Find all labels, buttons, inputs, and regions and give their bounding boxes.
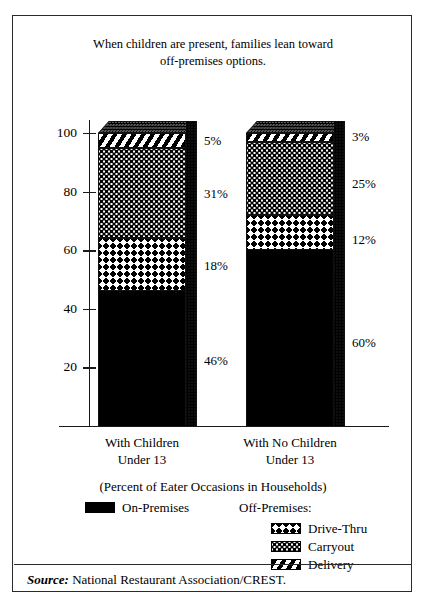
bar-top-face-with-no-children bbox=[246, 121, 345, 133]
source-divider bbox=[14, 564, 412, 565]
category-label-with-no-children-line-2: Under 13 bbox=[210, 451, 370, 468]
bar-front-face-with-children bbox=[98, 133, 186, 426]
legend-swatch-carryout-icon bbox=[271, 541, 301, 552]
legend-item-carryout: Carryout bbox=[271, 539, 354, 554]
legend-swatch-drive-thru-icon bbox=[271, 523, 301, 534]
legend-item-on-premises: On-Premises bbox=[85, 500, 189, 515]
y-tick-mark-20 bbox=[83, 367, 96, 368]
bar-label-delivery-with-no-children: 3% bbox=[352, 130, 369, 143]
y-tick-mark-80 bbox=[83, 192, 96, 193]
y-tick-label-20: 20 bbox=[31, 360, 77, 374]
y-tick-label-80: 80 bbox=[31, 185, 77, 199]
legend-label-carryout: Carryout bbox=[308, 539, 354, 554]
source-label: Source: bbox=[27, 572, 69, 587]
legend-swatch-on-premises-icon bbox=[85, 502, 115, 513]
y-tick-mark-100 bbox=[83, 133, 96, 134]
bar-segment-onpremises-with-no-children bbox=[247, 250, 333, 426]
bar-segment-carryout-with-no-children bbox=[247, 142, 333, 215]
bar-label-drivethru-with-no-children: 12% bbox=[352, 233, 376, 246]
legend-label-drive-thru: Drive-Thru bbox=[308, 521, 367, 536]
chart-caption: (Percent of Eater Occasions in Household… bbox=[13, 479, 413, 495]
category-label-with-children-line-2: Under 13 bbox=[62, 451, 222, 468]
category-label-with-children-line-1: With Children bbox=[62, 434, 222, 451]
y-axis-line bbox=[89, 120, 90, 427]
bar-segment-delivery-with-children bbox=[99, 133, 185, 148]
bar-label-drivethru-with-children: 18% bbox=[204, 259, 228, 272]
bar-segment-drivethru-with-no-children bbox=[247, 215, 333, 250]
source-text: National Restaurant Association/CREST. bbox=[72, 572, 286, 587]
chart-frame: When children are present, families lean… bbox=[12, 15, 412, 592]
y-tick-mark-40 bbox=[83, 309, 96, 310]
y-tick-label-40: 40 bbox=[31, 302, 77, 316]
bar-label-onpremises-with-no-children: 60% bbox=[352, 336, 376, 349]
plot-area: 100 80 60 40 20 5% 31% 18 bbox=[13, 16, 413, 593]
x-axis-line bbox=[59, 426, 389, 427]
category-label-with-no-children-line-1: With No Children bbox=[210, 434, 370, 451]
bar-segment-delivery-with-no-children bbox=[247, 133, 333, 142]
source-note: Source: National Restaurant Association/… bbox=[27, 572, 286, 588]
bar-front-face-with-no-children bbox=[246, 133, 334, 426]
y-tick-label-100: 100 bbox=[31, 126, 77, 140]
bar-label-carryout-with-children: 31% bbox=[204, 187, 228, 200]
bar-side-face-with-children bbox=[186, 121, 197, 426]
category-label-with-no-children: With No Children Under 13 bbox=[210, 434, 370, 468]
legend-item-drive-thru: Drive-Thru bbox=[271, 521, 367, 536]
legend-label-on-premises: On-Premises bbox=[122, 500, 189, 515]
bar-label-onpremises-with-children: 46% bbox=[204, 354, 228, 367]
bar-side-face-with-no-children bbox=[334, 121, 345, 426]
bar-label-delivery-with-children: 5% bbox=[204, 134, 221, 147]
bar-label-carryout-with-no-children: 25% bbox=[352, 177, 376, 190]
bar-segment-carryout-with-children bbox=[99, 148, 185, 239]
y-tick-mark-60 bbox=[83, 250, 96, 251]
y-tick-label-60: 60 bbox=[31, 243, 77, 257]
bar-segment-onpremises-with-children bbox=[99, 291, 185, 426]
category-label-with-children: With Children Under 13 bbox=[62, 434, 222, 468]
bar-segment-drivethru-with-children bbox=[99, 238, 185, 291]
bar-top-face-with-children bbox=[98, 121, 197, 133]
legend-heading-off-premises: Off-Premises: bbox=[239, 500, 312, 516]
